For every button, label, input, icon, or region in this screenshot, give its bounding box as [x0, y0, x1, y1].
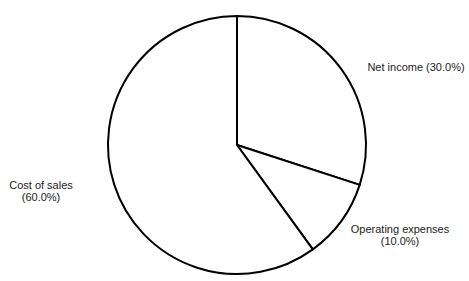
label-operating-expenses: Operating expenses — [351, 223, 450, 235]
label-cost-of-sales-value: (60.0%) — [22, 191, 61, 203]
label-operating-expenses-value: (10.0%) — [381, 235, 420, 247]
label-cost-of-sales: Cost of sales — [9, 179, 73, 191]
pie-slices — [108, 16, 366, 274]
label-net-income: Net income (30.0%) — [367, 61, 464, 73]
pie-chart: Net income (30.0%) Operating expenses (1… — [0, 0, 469, 281]
